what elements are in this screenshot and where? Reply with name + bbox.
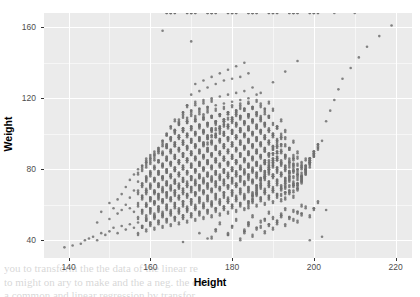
data-point [341, 77, 344, 80]
data-point [149, 161, 152, 164]
y-axis-tick-mark [41, 169, 44, 170]
data-point [214, 83, 217, 86]
data-point [198, 108, 201, 111]
data-point [194, 13, 197, 14]
data-point [235, 147, 238, 150]
data-point [231, 131, 234, 134]
data-point [268, 164, 271, 167]
data-point [235, 209, 238, 212]
data-point [255, 99, 258, 102]
data-point [92, 235, 95, 238]
data-point [280, 212, 283, 215]
data-point [239, 154, 242, 157]
x-axis-tick-mark [396, 258, 397, 261]
y-axis-tick-label: 80 [10, 165, 36, 174]
data-point [239, 106, 242, 109]
data-point [157, 184, 160, 187]
data-point [280, 193, 283, 196]
data-point [157, 159, 160, 162]
data-point [268, 100, 271, 103]
data-point [116, 232, 119, 235]
data-point [182, 166, 185, 169]
data-point [288, 13, 291, 14]
data-point [268, 159, 271, 162]
data-point [190, 200, 193, 203]
data-point [231, 168, 234, 171]
data-point [137, 180, 140, 183]
data-point [264, 136, 267, 139]
data-point [141, 225, 144, 228]
data-point [116, 212, 119, 215]
data-point [259, 129, 262, 132]
data-point [288, 170, 291, 173]
data-point [239, 237, 242, 240]
data-point [219, 95, 222, 98]
data-point [198, 175, 201, 178]
data-point [210, 152, 213, 155]
data-point [227, 136, 230, 139]
data-point [169, 13, 172, 14]
data-point [268, 223, 271, 226]
data-point [129, 179, 132, 182]
data-point [194, 180, 197, 183]
data-point [227, 13, 230, 14]
data-point [247, 187, 250, 190]
data-point [223, 182, 226, 185]
data-point [243, 230, 246, 233]
data-point [288, 216, 291, 219]
data-point [243, 132, 246, 135]
data-point [178, 118, 181, 121]
data-point [210, 115, 213, 118]
data-point [165, 205, 168, 208]
data-point [161, 163, 164, 166]
data-point [239, 99, 242, 102]
data-point [235, 113, 238, 116]
data-point [202, 189, 205, 192]
data-point [313, 13, 316, 14]
data-point [259, 184, 262, 187]
data-point [227, 148, 230, 151]
data-point [194, 203, 197, 206]
data-point [137, 216, 140, 219]
data-point [272, 152, 275, 155]
x-axis-tick-label: 220 [381, 263, 411, 272]
data-point [194, 168, 197, 171]
data-point [190, 164, 193, 167]
data-point [198, 163, 201, 166]
data-point [280, 132, 283, 135]
data-point [174, 180, 177, 183]
data-point [214, 120, 217, 123]
data-point [264, 122, 267, 125]
data-point [329, 109, 332, 112]
data-point [280, 161, 283, 164]
data-point [247, 140, 250, 143]
data-point [182, 179, 185, 182]
data-point [165, 132, 168, 135]
data-point [133, 173, 136, 176]
data-point [247, 72, 250, 75]
data-point [276, 170, 279, 173]
data-point [231, 116, 234, 119]
data-point [165, 145, 168, 148]
data-point [186, 182, 189, 185]
data-point [243, 207, 246, 210]
data-point [174, 143, 177, 146]
data-point [284, 70, 287, 73]
data-point [276, 140, 279, 143]
data-point [178, 171, 181, 174]
data-point [153, 177, 156, 180]
data-point [198, 124, 201, 127]
data-point [259, 198, 262, 201]
data-point [194, 143, 197, 146]
data-point [296, 219, 299, 222]
data-point [161, 198, 164, 201]
data-point [133, 211, 136, 214]
y-axis-tick-mark [41, 240, 44, 241]
data-point [165, 195, 168, 198]
data-point [145, 203, 148, 206]
data-point [165, 182, 168, 185]
data-point [186, 145, 189, 148]
data-point [141, 164, 144, 167]
data-point [108, 202, 111, 205]
data-point [178, 159, 181, 162]
